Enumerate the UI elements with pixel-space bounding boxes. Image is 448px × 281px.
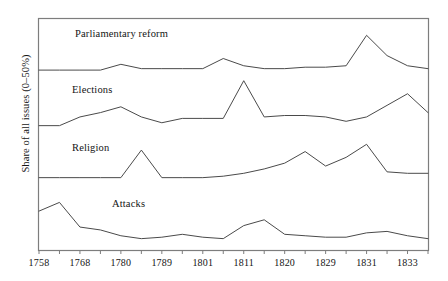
series-label-3: Attacks	[112, 198, 145, 209]
x-axis-tick-label: 1831	[356, 257, 377, 268]
series-label-2: Religion	[72, 142, 109, 153]
x-axis-tick-label: 1833	[397, 257, 418, 268]
x-axis-tick-label: 1758	[29, 257, 50, 268]
series-line-3	[39, 202, 428, 238]
series-line-0	[39, 35, 428, 70]
series-lines	[39, 35, 428, 238]
x-axis-tick-label: 1768	[70, 257, 91, 268]
x-axis-tick-label: 1820	[274, 257, 295, 268]
figure-container: Share of all issues (0–50%) 175817681780…	[0, 0, 448, 281]
x-axis-tick-label: 1829	[315, 257, 336, 268]
plot-canvas	[0, 0, 448, 281]
x-axis-tick-label: 1789	[151, 257, 172, 268]
x-axis-tick-label: 1780	[110, 257, 131, 268]
x-axis-tick-label: 1801	[192, 257, 213, 268]
series-label-1: Elections	[72, 84, 112, 95]
plot-frame	[39, 19, 429, 251]
series-label-0: Parliamentary reform	[75, 28, 168, 39]
x-axis-tick-label: 1811	[234, 257, 254, 268]
